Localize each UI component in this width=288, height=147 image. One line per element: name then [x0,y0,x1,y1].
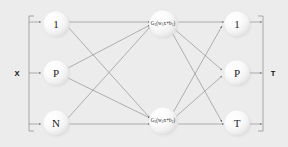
node-input-1-label: 1 [53,18,59,30]
edges-input-to-hidden [68,22,150,124]
input-layer: 1 P N [42,11,72,139]
network-canvas: X 1 [0,0,288,147]
input-bracket: X [14,16,41,131]
node-input-n-label: N [52,117,60,129]
node-output-1-label: 1 [234,18,240,30]
node-input-1[interactable]: 1 [42,11,72,40]
edges-hidden-to-output [170,22,224,124]
output-bracket-shape [258,16,263,131]
node-output-p[interactable]: P [223,60,253,89]
neural-network-diagram: X 1 [0,0,288,147]
edge-inp-hid1 [68,25,150,68]
edge-hid1-outt [170,29,222,122]
input-bracket-shape [29,16,34,131]
output-bracket-label: T [271,69,276,78]
edge-inp-hid2 [68,78,150,118]
node-hidden-2[interactable]: G2(w2x+b2) [148,107,180,138]
output-bracket: T [250,16,276,131]
edge-hid2-outp [172,76,222,120]
edge-hid2-out1 [170,26,222,118]
node-output-t[interactable]: T [223,110,253,139]
node-output-p-label: P [234,67,240,79]
input-bracket-label: X [14,69,19,78]
node-output-1[interactable]: 1 [223,11,253,40]
node-input-p[interactable]: P [42,60,72,89]
hidden-layer: G1(w1x+b1) G2(w2x+b2) [148,10,180,138]
node-output-t-label: T [234,117,241,129]
node-hidden-1[interactable]: G1(w1x+b1) [148,10,180,41]
node-input-n[interactable]: N [42,110,72,139]
output-layer: 1 P T [223,11,253,139]
edge-hid1-outp [172,27,222,70]
node-input-p-label: P [53,67,59,79]
